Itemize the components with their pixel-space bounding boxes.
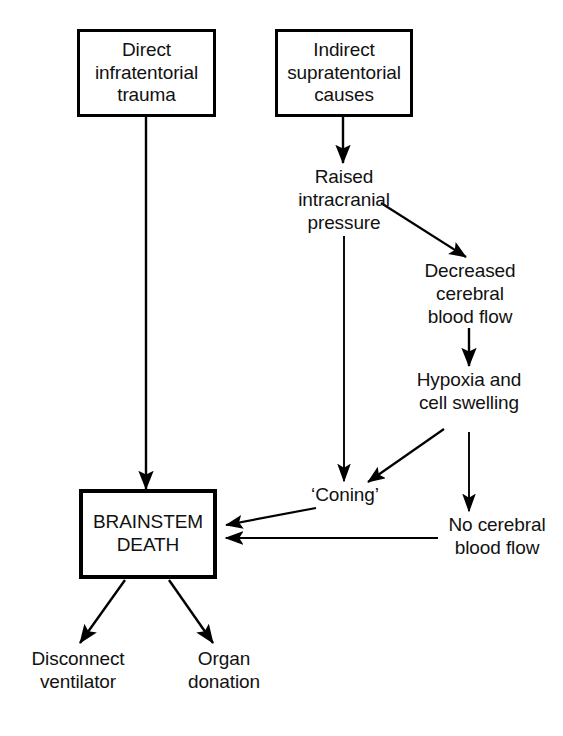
node-brainstem-death[interactable]: BRAINSTEM DEATH: [79, 489, 217, 579]
edge-coning-to-brainstem-death: [226, 508, 316, 525]
node-no-cerebral-blood-flow: No cerebral blood flow: [435, 514, 559, 560]
edge-hypoxia-to-coning: [368, 429, 444, 482]
node-indirect-supratentorial-causes-label: Indirect supratentorial causes: [287, 39, 401, 107]
node-decreased-cerebral-blood-flow: Decreased cerebral blood flow: [399, 260, 541, 328]
flowchart-diagram: Direct infratentorial trauma Indirect su…: [0, 0, 563, 736]
edge-brainstem-death-to-disconnect-ventilator: [80, 580, 125, 643]
node-organ-donation: Organ donation: [166, 648, 282, 694]
node-coning: ‘Coning’: [296, 484, 394, 507]
node-direct-infratentorial-trauma-label: Direct infratentorial trauma: [95, 39, 198, 107]
node-disconnect-ventilator: Disconnect ventilator: [13, 648, 143, 694]
node-indirect-supratentorial-causes[interactable]: Indirect supratentorial causes: [275, 29, 413, 117]
node-hypoxia-and-cell-swelling: Hypoxia and cell swelling: [396, 369, 542, 415]
node-brainstem-death-label: BRAINSTEM DEATH: [93, 511, 203, 557]
node-raised-intracranial-pressure: Raised intracranial pressure: [274, 166, 414, 234]
edge-brainstem-death-to-organ-donation: [169, 580, 213, 643]
node-direct-infratentorial-trauma[interactable]: Direct infratentorial trauma: [77, 29, 216, 117]
